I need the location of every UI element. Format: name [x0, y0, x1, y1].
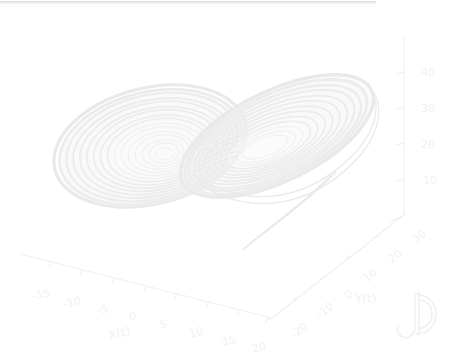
- z-tick: [396, 72, 404, 74]
- y-axis-line: [272, 215, 404, 318]
- z-tick-label: 20: [421, 138, 435, 151]
- z-tick: [396, 107, 404, 109]
- z-tick-label: 40: [421, 66, 435, 79]
- x-tick: [144, 286, 146, 291]
- x-tick: [238, 310, 240, 315]
- z-tick-label: 30: [421, 102, 435, 115]
- figure-canvas: -15 -10 -5 0 5 10 15 20 X(t) -20 -10 0 1…: [0, 0, 449, 355]
- x-tick: [207, 302, 209, 307]
- x-tick: [112, 278, 114, 283]
- z-tick: [396, 143, 404, 145]
- x-tick: [49, 262, 51, 267]
- z-tick-label: 10: [423, 174, 437, 187]
- lorenz-trajectory: [41, 50, 391, 250]
- y-axis-label: Y(t): [355, 292, 376, 306]
- x-tick: [80, 270, 82, 275]
- z-tick: [396, 179, 404, 181]
- x-tick-label: 20: [251, 340, 268, 355]
- x-tick: [175, 294, 177, 299]
